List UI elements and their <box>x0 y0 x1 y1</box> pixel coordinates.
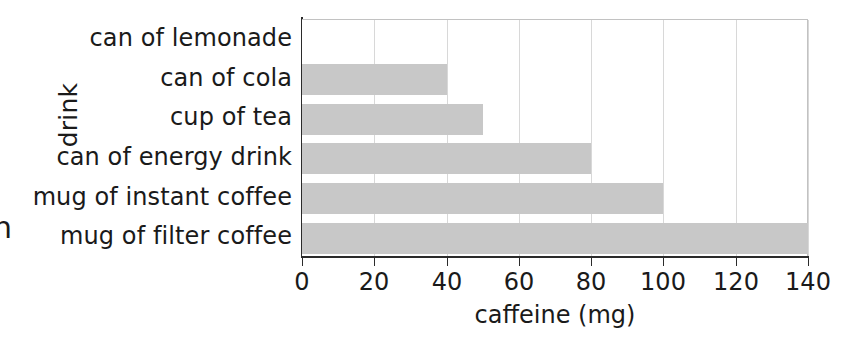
x-tick-mark <box>663 257 664 266</box>
x-tick-mark <box>374 257 375 266</box>
x-tick-label: 0 <box>294 268 309 296</box>
x-tick-label: 100 <box>640 268 686 296</box>
category-label-column: can of lemonadecan of colacup of teacan … <box>60 19 298 257</box>
bar <box>302 223 808 254</box>
bar <box>302 143 591 174</box>
bar <box>302 183 663 214</box>
x-tick-label: 140 <box>785 268 831 296</box>
x-tick-label: 120 <box>713 268 759 296</box>
x-tick-label: 40 <box>432 268 463 296</box>
x-tick-mark <box>736 257 737 266</box>
x-tick-mark <box>302 257 303 266</box>
category-label: can of cola <box>160 59 292 99</box>
x-tick-label: 60 <box>504 268 535 296</box>
category-label: can of energy drink <box>56 138 292 178</box>
x-tick-mark <box>519 257 520 266</box>
caffeine-bar-chart: n drink can of lemonadecan of colacup of… <box>0 0 849 342</box>
page-edge-text-fragment: n <box>0 213 14 243</box>
bar <box>302 104 483 135</box>
category-label: cup of tea <box>170 98 292 138</box>
gridline <box>808 20 809 258</box>
x-tick-mark <box>447 257 448 266</box>
category-label: mug of filter coffee <box>60 217 292 257</box>
bar <box>302 64 447 95</box>
x-tick-label: 20 <box>359 268 390 296</box>
category-label: can of lemonade <box>90 19 292 59</box>
x-tick-mark <box>591 257 592 266</box>
category-label: mug of instant coffee <box>33 178 292 218</box>
x-tick-label: 80 <box>576 268 607 296</box>
plot-area <box>302 19 808 257</box>
x-tick-mark <box>808 257 809 266</box>
x-axis-spine <box>301 256 809 258</box>
x-axis-title: caffeine (mg) <box>302 300 808 330</box>
